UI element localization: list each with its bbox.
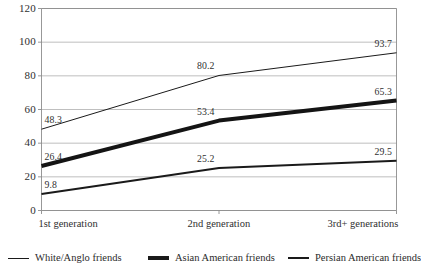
y-tick-label: 60 — [4, 104, 36, 115]
y-tick-label: 100 — [4, 36, 36, 47]
data-label: 9.8 — [45, 180, 58, 190]
y-axis-ticks: 120100806040200 — [0, 0, 36, 271]
data-label: 26.4 — [45, 152, 63, 162]
legend-label: Persian American friends — [315, 252, 421, 264]
data-label: 53.4 — [197, 107, 215, 117]
y-tick-label: 0 — [4, 205, 36, 216]
legend-item-0[interactable]: White/Anglo friends — [8, 250, 122, 266]
data-label: 65.3 — [375, 87, 393, 97]
legend-label: Asian American friends — [175, 252, 275, 264]
data-label: 93.7 — [375, 39, 393, 49]
data-label: 29.5 — [375, 147, 393, 157]
x-tick-label: 2nd generation — [188, 218, 251, 230]
legend-item-2[interactable]: Persian American friends — [288, 250, 421, 266]
y-tick-label: 120 — [4, 3, 36, 14]
y-tick-label: 40 — [4, 137, 36, 148]
y-tick-label: 80 — [4, 70, 36, 81]
data-label: 80.2 — [197, 61, 215, 71]
legend-line-icon — [288, 257, 309, 260]
series-lines — [42, 53, 397, 194]
chart-legend: White/Anglo friendsAsian American friend… — [0, 250, 415, 271]
x-tick-label: 1st generation — [39, 218, 98, 230]
legend-label: White/Anglo friends — [35, 252, 122, 264]
plot-frame — [38, 9, 397, 215]
data-label: 48.3 — [45, 115, 63, 125]
y-tick-label: 20 — [4, 171, 36, 182]
series-line-0 — [42, 53, 397, 129]
legend-line-icon — [148, 256, 169, 260]
legend-line-icon — [8, 258, 29, 259]
series-line-2 — [42, 161, 397, 194]
legend-item-1[interactable]: Asian American friends — [148, 250, 275, 266]
x-tick-label: 3rd+ generations — [328, 218, 399, 230]
gridlines — [42, 9, 397, 211]
data-label: 25.2 — [197, 154, 215, 164]
series-line-1 — [42, 101, 397, 166]
